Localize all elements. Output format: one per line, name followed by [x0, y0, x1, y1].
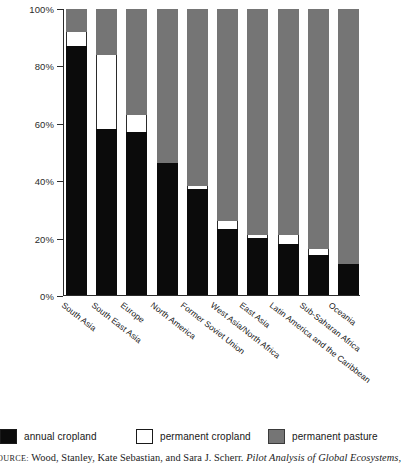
segment-permanent-pasture	[126, 9, 147, 115]
legend-item-permanent-pasture[interactable]: permanent pasture	[268, 429, 378, 444]
bar-west-asia-north-africa[interactable]	[217, 9, 238, 295]
legend-swatch-permanent-pasture	[268, 429, 285, 444]
segment-annual-cropland	[308, 255, 329, 295]
segment-permanent-cropland	[66, 32, 87, 46]
bar-group	[64, 9, 360, 295]
segment-permanent-pasture	[157, 9, 178, 163]
source-citation: OURCE: Wood, Stanley, Kate Sebastian, an…	[0, 452, 387, 463]
segment-permanent-pasture	[247, 9, 268, 235]
plot-area	[63, 9, 360, 296]
segment-annual-cropland	[247, 238, 268, 295]
bar-europe[interactable]	[126, 9, 147, 295]
segment-permanent-cropland	[217, 221, 238, 230]
source-prefix: OURCE:	[0, 454, 29, 463]
bar-north-america[interactable]	[157, 9, 178, 295]
legend-swatch-permanent-cropland	[136, 429, 153, 444]
bar-south-asia[interactable]	[66, 9, 87, 295]
bar-east-asia[interactable]	[247, 9, 268, 295]
legend-label-permanent-pasture: permanent pasture	[292, 431, 378, 442]
segment-annual-cropland	[157, 163, 178, 295]
x-axis-labels: South AsiaSouth East AsiaEuropeNorth Ame…	[63, 297, 383, 397]
segment-permanent-pasture	[187, 9, 208, 186]
source-authors: Wood, Stanley, Kate Sebastian, and Sara …	[31, 452, 243, 463]
legend-item-annual-cropland[interactable]: annual cropland	[0, 429, 97, 444]
segment-permanent-cropland	[96, 55, 117, 129]
legend-item-permanent-cropland[interactable]: permanent cropland	[136, 429, 251, 444]
bar-oceania[interactable]	[338, 9, 359, 295]
bar-sub-saharan-africa[interactable]	[308, 9, 329, 295]
y-tick-label-20: 20%	[35, 233, 54, 244]
bar-latin-america-and-the-caribbean[interactable]	[278, 9, 299, 295]
bar-former-soviet-union[interactable]	[187, 9, 208, 295]
bar-south-east-asia[interactable]	[96, 9, 117, 295]
segment-annual-cropland	[126, 132, 147, 295]
segment-permanent-pasture	[278, 9, 299, 235]
legend-swatch-annual-cropland	[0, 429, 17, 444]
x-tick-label-south-east-asia: South East Asia	[90, 300, 144, 345]
segment-annual-cropland	[338, 264, 359, 295]
legend-label-permanent-cropland: permanent cropland	[160, 431, 251, 442]
legend-label-annual-cropland: annual cropland	[24, 431, 97, 442]
segment-permanent-pasture	[217, 9, 238, 221]
segment-annual-cropland	[66, 46, 87, 295]
segment-permanent-pasture	[96, 9, 117, 55]
segment-annual-cropland	[278, 244, 299, 295]
source-publication-title: Pilot Analysis of Global Ecosystems,	[246, 452, 401, 463]
y-tick-label-100: 100%	[29, 4, 54, 15]
y-tick-label-80: 80%	[35, 61, 54, 72]
segment-permanent-cropland	[126, 115, 147, 132]
chart-legend: annual cropland permanent cropland perma…	[0, 425, 383, 447]
segment-permanent-pasture	[66, 9, 87, 32]
y-axis: 100%80%60%40%20%0%	[0, 0, 63, 296]
segment-permanent-pasture	[308, 9, 329, 249]
y-tick-label-40: 40%	[35, 176, 54, 187]
segment-permanent-pasture	[338, 9, 359, 264]
segment-annual-cropland	[187, 189, 208, 295]
segment-permanent-cropland	[278, 235, 299, 244]
y-tick-label-60: 60%	[35, 118, 54, 129]
segment-annual-cropland	[96, 129, 117, 295]
y-tick-label-0: 0%	[40, 291, 54, 302]
segment-annual-cropland	[217, 229, 238, 295]
